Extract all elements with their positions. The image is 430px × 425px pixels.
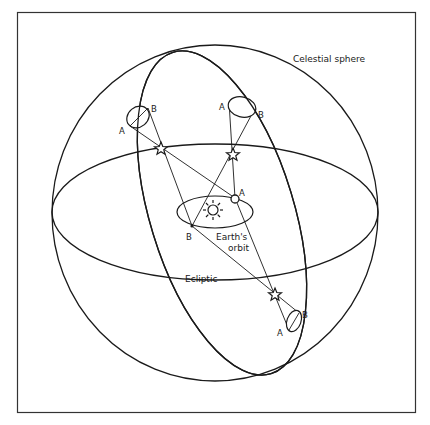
sun-icon [203, 200, 223, 220]
earths-orbit-label-line1: Earth's [216, 232, 248, 242]
tilted-great-circle [104, 31, 340, 394]
earth-position-B [190, 224, 193, 227]
ecliptic-label: Ecliptic [185, 274, 217, 284]
point-label-star1-B: B [151, 104, 157, 114]
point-label-star3-A: A [277, 328, 283, 338]
sightlines-star-3 [192, 198, 299, 330]
earths-orbit-label-line2: orbit [228, 243, 249, 253]
earth-position-A [231, 195, 239, 203]
point-label-earth-B: B [186, 232, 192, 242]
point-label-star2-B: B [258, 110, 264, 120]
great-circle-overlay [104, 31, 340, 394]
sightlines-star-2 [192, 102, 252, 226]
stellar-parallax-diagram: Celestial sphere Earth's orbit Ecliptic … [0, 0, 430, 425]
point-label-star3-B: B [302, 310, 308, 320]
point-label-earth-A: A [239, 188, 245, 198]
point-label-star1-A: A [119, 126, 125, 136]
celestial-sphere-label: Celestial sphere [293, 54, 366, 64]
point-label-star2-A: A [219, 102, 225, 112]
